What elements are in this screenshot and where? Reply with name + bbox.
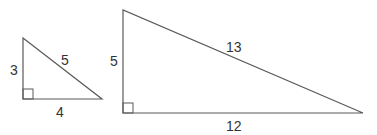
small-hypotenuse-label: 5 [61, 52, 69, 68]
large-triangle-outline [123, 10, 363, 113]
large-vertical-leg-label: 5 [110, 53, 118, 69]
small-triangle: 3 4 5 [10, 38, 102, 120]
small-vertical-leg-label: 3 [10, 62, 18, 78]
large-horizontal-leg-label: 12 [226, 118, 242, 134]
large-triangle: 5 12 13 [110, 10, 363, 134]
triangles-diagram: 3 4 5 5 12 13 [0, 0, 377, 135]
large-right-angle-marker [123, 103, 133, 113]
small-horizontal-leg-label: 4 [56, 104, 64, 120]
small-right-angle-marker [23, 89, 33, 99]
large-hypotenuse-label: 13 [226, 39, 242, 55]
small-triangle-outline [23, 38, 102, 99]
